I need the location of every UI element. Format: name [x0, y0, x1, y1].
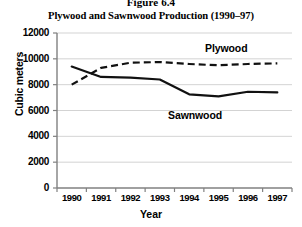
series-line-plywood — [72, 62, 278, 85]
series-label-plywood: Plywood — [205, 42, 247, 54]
y-tick-label: 2000 — [7, 156, 49, 167]
series-line-sawnwood — [72, 67, 278, 97]
y-tick-label: 6000 — [7, 105, 49, 116]
figure-container: Figure 6.4 Plywood and Sawnwood Producti… — [0, 0, 302, 227]
x-axis-label: Year — [0, 208, 302, 220]
y-tick-label: 12000 — [7, 27, 49, 38]
x-tick-label: 1997 — [260, 192, 294, 203]
gridlines — [57, 33, 292, 162]
y-tick-label: 4000 — [7, 130, 49, 141]
y-tick-label: 8000 — [7, 79, 49, 90]
series-label-sawnwood: Sawnwood — [168, 109, 222, 121]
y-tick-label: 10000 — [7, 53, 49, 64]
y-tick-label: 0 — [7, 182, 49, 193]
